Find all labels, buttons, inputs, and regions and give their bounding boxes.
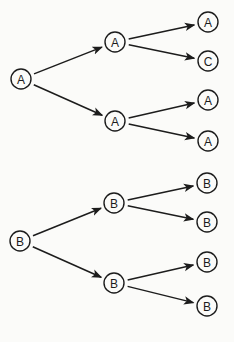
nodes-layer: AAAACAABBBBBBB — [10, 12, 218, 316]
node-label: A — [204, 16, 212, 30]
node-label: C — [204, 55, 213, 69]
node-a11: A — [198, 12, 218, 32]
node-label: A — [17, 73, 25, 87]
node-b22: B — [197, 296, 217, 316]
arrow-edge — [128, 206, 194, 219]
arrow-edge — [34, 85, 102, 116]
tree-diagram: AAAACAABBBBBBB — [0, 0, 234, 342]
node-a22: A — [198, 131, 218, 151]
arrow-edge — [128, 286, 194, 302]
arrow-edge — [33, 247, 101, 278]
arrow-edge — [129, 45, 195, 58]
edges-layer — [33, 25, 195, 303]
node-label: B — [16, 235, 24, 249]
node-b11: B — [197, 173, 217, 193]
node-label: A — [204, 135, 212, 149]
node-label: B — [203, 216, 211, 230]
arrow-edge — [129, 124, 195, 138]
arrow-edge — [34, 47, 102, 74]
node-label: A — [111, 36, 119, 50]
node-b1: B — [104, 193, 124, 213]
node-b0: B — [10, 231, 30, 251]
node-b2: B — [104, 273, 124, 293]
arrow-edge — [128, 186, 194, 200]
arrow-edge — [33, 208, 101, 236]
arrow-edge — [129, 103, 195, 118]
node-b21: B — [197, 252, 217, 272]
node-a12: C — [198, 51, 218, 71]
node-b12: B — [197, 212, 217, 232]
node-label: B — [203, 177, 211, 191]
node-label: B — [203, 256, 211, 270]
node-a0: A — [11, 69, 31, 89]
node-a21: A — [198, 90, 218, 110]
node-label: B — [203, 300, 211, 314]
node-label: B — [110, 277, 118, 291]
arrow-edge — [128, 265, 194, 280]
arrow-edge — [129, 25, 195, 39]
node-a1: A — [105, 32, 125, 52]
node-a2: A — [105, 111, 125, 131]
node-label: A — [204, 94, 212, 108]
node-label: A — [111, 115, 119, 129]
node-label: B — [110, 197, 118, 211]
